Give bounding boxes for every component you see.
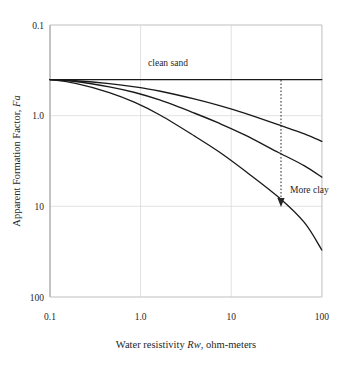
x-tick-label-10: 10 (226, 312, 236, 322)
x-axis-title-plain: Water resistivity (116, 339, 187, 350)
y-tick-label-1: 10 (35, 202, 45, 212)
y-tick-label-100: 0.1 (32, 21, 44, 31)
annotation-clean-sand: clean sand (148, 58, 188, 68)
chart-svg: clean sand More clay 0.1 1.0 10 100 0.1 … (0, 0, 345, 367)
annotation-more-clay: More clay (290, 185, 329, 195)
x-tick-label-1: 1.0 (135, 312, 147, 322)
y-axis-title: Apparent Formation Factor, Fa (11, 95, 22, 226)
y-axis-title-symbol: Fa (11, 95, 22, 108)
x-axis-title-symbol: Rw (186, 339, 200, 350)
x-axis-title: Water resistivity Rw, ohm-meters (116, 339, 256, 350)
y-tick-label-0.1: 100 (30, 293, 45, 303)
x-axis-title-tail: , ohm-meters (201, 339, 256, 350)
x-tick-label-0.1: 0.1 (44, 312, 56, 322)
chart-figure: clean sand More clay 0.1 1.0 10 100 0.1 … (0, 0, 345, 367)
y-tick-label-10: 1.0 (32, 111, 44, 121)
y-axis-title-plain: Apparent Formation Factor, (11, 107, 22, 227)
x-tick-label-100: 100 (315, 312, 330, 322)
